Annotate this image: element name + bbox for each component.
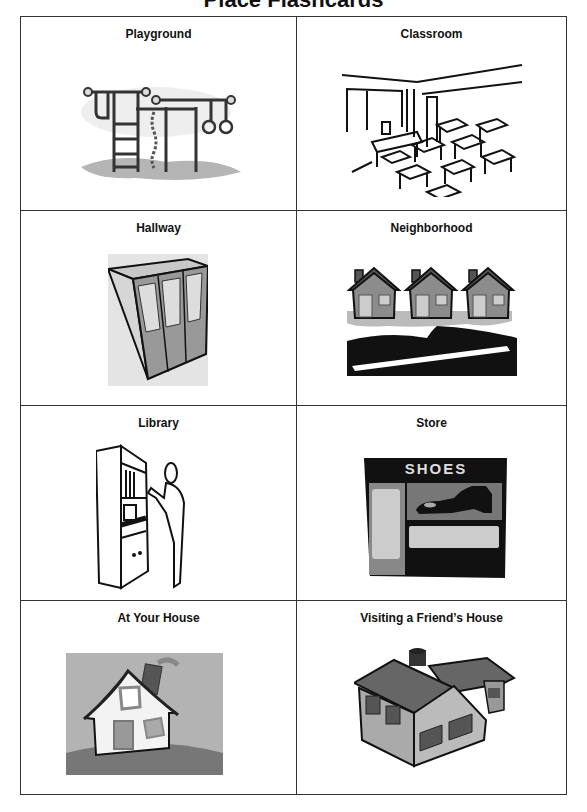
lockers-icon (108, 254, 208, 386)
shoe-store-icon: SHOES (364, 458, 509, 578)
card-store: Store SHOES (297, 406, 566, 601)
card-at-your-house: At Your House (21, 601, 297, 794)
card-label: Hallway (21, 221, 296, 235)
classroom-icon (342, 57, 532, 197)
playground-icon (76, 72, 246, 187)
card-neighborhood: Neighborhood (297, 211, 566, 406)
friend-house-icon (354, 648, 519, 773)
card-classroom: Classroom (297, 17, 566, 211)
card-label: Store (297, 416, 566, 430)
houses-street-icon (347, 266, 522, 381)
card-label: Classroom (297, 27, 566, 41)
card-visiting-friends-house: Visiting a Friend’s House (297, 601, 566, 794)
card-label: Playground (21, 27, 296, 41)
store-sign: SHOES (405, 460, 468, 477)
card-label: At Your House (21, 611, 296, 625)
card-playground: Playground (21, 17, 297, 211)
card-library: Library (21, 406, 297, 601)
card-label: Library (21, 416, 296, 430)
card-label: Visiting a Friend’s House (297, 611, 566, 625)
bookshelf-person-icon (96, 443, 196, 593)
card-label: Neighborhood (297, 221, 566, 235)
page-title: Place Flashcards (0, 0, 587, 12)
house-icon (66, 653, 223, 775)
flashcard-grid: Playground (20, 16, 567, 795)
card-hallway: Hallway (21, 211, 297, 406)
